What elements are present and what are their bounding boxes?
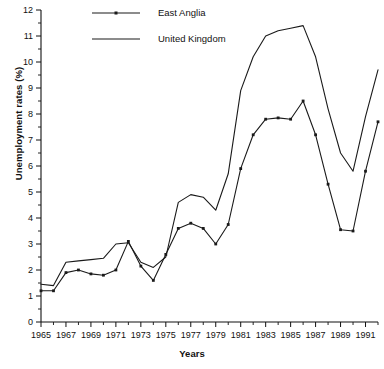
plot-area: 0123456789101112 19651967196919711973197… bbox=[0, 0, 384, 369]
y-tick-label: 6 bbox=[28, 161, 33, 171]
data-point-marker bbox=[227, 223, 230, 226]
x-tick-label: 1969 bbox=[81, 330, 101, 340]
data-point-marker bbox=[114, 269, 117, 272]
data-point-marker bbox=[40, 289, 43, 292]
data-point-marker bbox=[289, 118, 292, 121]
data-point-marker bbox=[364, 170, 367, 173]
data-point-marker bbox=[65, 271, 68, 274]
x-axis-ticks: 1965196719691971197319751977197919811983… bbox=[31, 322, 378, 340]
x-tick-label: 1975 bbox=[156, 330, 176, 340]
data-point-marker bbox=[77, 269, 80, 272]
legend-label-1: United Kingdom bbox=[158, 33, 226, 44]
y-tick-label: 7 bbox=[28, 135, 33, 145]
y-tick-label: 8 bbox=[28, 109, 33, 119]
y-tick-label: 3 bbox=[28, 239, 33, 249]
chart-legend: East AngliaUnited Kingdom bbox=[92, 7, 226, 44]
y-tick-label: 12 bbox=[23, 5, 33, 15]
y-tick-label: 9 bbox=[28, 83, 33, 93]
data-point-marker bbox=[339, 228, 342, 231]
y-tick-label: 0 bbox=[28, 317, 33, 327]
data-point-marker bbox=[152, 279, 155, 282]
y-tick-label: 5 bbox=[28, 187, 33, 197]
x-tick-label: 1991 bbox=[356, 330, 376, 340]
data-point-marker bbox=[264, 118, 267, 121]
data-point-marker bbox=[302, 100, 305, 103]
y-tick-label: 1 bbox=[28, 291, 33, 301]
data-point-marker bbox=[177, 227, 180, 230]
series-line-0 bbox=[41, 101, 378, 291]
x-tick-label: 1985 bbox=[281, 330, 301, 340]
legend-swatch-marker-0 bbox=[115, 12, 118, 15]
data-point-marker bbox=[352, 230, 355, 233]
x-tick-label: 1981 bbox=[231, 330, 251, 340]
y-tick-label: 4 bbox=[28, 213, 33, 223]
data-point-marker bbox=[327, 183, 330, 186]
data-point-marker bbox=[52, 289, 55, 292]
data-point-marker bbox=[214, 243, 217, 246]
data-point-marker bbox=[277, 117, 280, 120]
data-point-marker bbox=[90, 273, 93, 276]
y-tick-label: 11 bbox=[24, 31, 33, 41]
legend-label-0: East Anglia bbox=[158, 7, 206, 18]
data-point-marker bbox=[189, 222, 192, 225]
data-point-marker bbox=[139, 265, 142, 268]
x-tick-label: 1987 bbox=[306, 330, 326, 340]
data-point-marker bbox=[377, 120, 380, 123]
unemployment-rates-chart: Unemployment rates (%) Years 01234567891… bbox=[0, 0, 384, 369]
x-tick-label: 1967 bbox=[56, 330, 76, 340]
data-point-marker bbox=[102, 274, 105, 277]
y-tick-label: 10 bbox=[23, 57, 33, 67]
y-tick-label: 2 bbox=[28, 265, 33, 275]
data-point-marker bbox=[314, 133, 317, 136]
data-point-marker bbox=[252, 133, 255, 136]
series-lines bbox=[40, 26, 380, 293]
data-point-marker bbox=[239, 167, 242, 170]
x-tick-label: 1971 bbox=[106, 330, 126, 340]
series-line-1 bbox=[41, 26, 378, 286]
data-point-marker bbox=[202, 227, 205, 230]
x-tick-label: 1973 bbox=[131, 330, 151, 340]
x-tick-label: 1977 bbox=[181, 330, 201, 340]
x-tick-label: 1965 bbox=[31, 330, 51, 340]
x-tick-label: 1983 bbox=[256, 330, 276, 340]
x-tick-label: 1989 bbox=[331, 330, 351, 340]
y-axis-ticks: 0123456789101112 bbox=[23, 5, 41, 327]
x-tick-label: 1979 bbox=[206, 330, 226, 340]
